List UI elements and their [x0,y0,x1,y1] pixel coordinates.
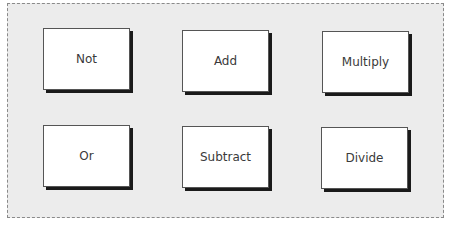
divide-label: Divide [345,151,383,165]
add-label: Add [214,54,237,68]
subtract-label: Subtract [200,150,251,164]
multiply-label: Multiply [342,55,389,69]
divide-button[interactable]: Divide [321,127,408,189]
or-button[interactable]: Or [43,125,130,187]
multiply-button[interactable]: Multiply [322,31,409,93]
not-label: Not [76,52,97,66]
subtract-button[interactable]: Subtract [182,126,269,188]
add-button[interactable]: Add [182,30,269,92]
or-label: Or [79,149,93,163]
operations-panel: Not Add Multiply Or Subtract Divide [7,3,444,218]
not-button[interactable]: Not [43,28,130,90]
